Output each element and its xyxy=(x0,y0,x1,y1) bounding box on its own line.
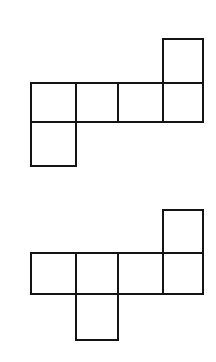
cube-nets-diagram xyxy=(0,0,216,362)
net-square xyxy=(76,253,118,294)
cube-net-top xyxy=(31,39,203,166)
net-square xyxy=(163,210,203,253)
net-square xyxy=(76,294,118,340)
cube-net-bottom xyxy=(31,210,203,340)
net-square xyxy=(163,253,203,294)
net-square xyxy=(31,253,76,294)
net-square xyxy=(31,122,76,166)
net-square xyxy=(163,83,203,122)
net-square xyxy=(163,39,203,83)
net-square xyxy=(118,253,163,294)
net-square xyxy=(76,83,118,122)
net-square xyxy=(31,83,76,122)
net-square xyxy=(118,83,163,122)
